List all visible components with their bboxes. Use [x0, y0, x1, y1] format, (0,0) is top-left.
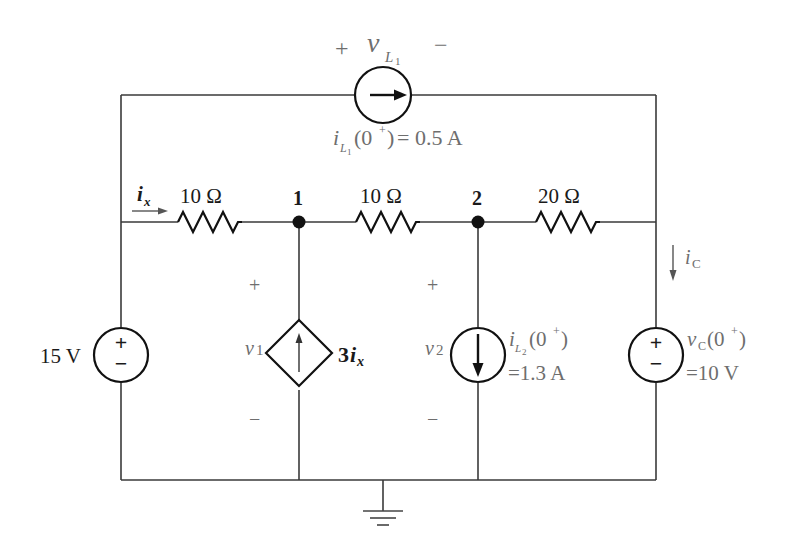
il2-close: )	[561, 327, 568, 351]
node-2-label: 2	[472, 187, 482, 209]
vc-var: v	[687, 327, 697, 351]
minus-sign: −	[115, 351, 128, 376]
v1-sub: 1	[256, 342, 264, 358]
ic-var: i	[685, 246, 691, 268]
node-1-label: 1	[293, 187, 303, 209]
gain-label: 3	[338, 342, 349, 367]
arrow-up-head	[296, 333, 303, 343]
resistor-r1	[178, 212, 242, 232]
r1-label: 10 Ω	[180, 184, 222, 208]
il1-value: = 0.5 A	[397, 125, 463, 150]
vc-initial-label: v C (0 + ) =10 V	[686, 324, 746, 385]
vc-sub: C	[698, 339, 706, 353]
vc-close: )	[739, 327, 746, 351]
arrow-down-head	[473, 363, 484, 377]
vc-arg: (0	[707, 327, 725, 351]
ix-var: i	[137, 182, 143, 206]
resistor-zigzag	[178, 212, 242, 232]
node-2-dot	[472, 216, 485, 229]
vc-value: =10 V	[686, 361, 739, 385]
v1-plus-sign: +	[249, 274, 260, 296]
resistor-zigzag	[536, 212, 600, 232]
source-15v-label: 15 V	[40, 344, 81, 368]
resistor-r3	[536, 212, 600, 232]
node-1-dot	[293, 216, 306, 229]
r2-label: 10 Ω	[360, 184, 402, 208]
vl1-subsub: 1	[395, 55, 401, 67]
v2-sub: 2	[436, 342, 444, 358]
ic-arrow-head	[670, 270, 677, 281]
il2-sup: +	[553, 324, 560, 338]
il1-close: )	[387, 125, 394, 150]
il1-arg: (0	[354, 125, 372, 150]
il2-value: =1.3 A	[508, 361, 566, 385]
inductor-l1-current-source	[355, 67, 411, 123]
ix-current-label: i x	[132, 182, 168, 215]
circuit-diagram: + v L 1 − i L 1 (0 + ) = 0.5 A 10 Ω 10 Ω…	[0, 0, 791, 555]
arrow-right-head	[394, 90, 407, 101]
ic-current-label: i C	[670, 245, 701, 281]
v1-minus-sign: −	[249, 408, 260, 430]
v2-minus-sign: −	[427, 408, 438, 430]
il2-arg: (0	[529, 327, 547, 351]
il1-subsub: 1	[347, 147, 352, 157]
v2-plus-sign: +	[427, 274, 438, 296]
inductor-l2-current-source	[451, 328, 505, 382]
vl1-plus-sign: +	[335, 35, 349, 61]
voltage-source-15v: + −	[94, 328, 148, 382]
il1-initial-label: i L 1 (0 + ) = 0.5 A	[333, 123, 463, 157]
resistor-r2	[356, 212, 420, 232]
il1-var: i	[333, 125, 339, 150]
vl1-sub: L	[384, 49, 393, 65]
vl1-minus-sign: −	[434, 32, 448, 58]
il2-sub: L	[514, 342, 521, 354]
wires	[121, 95, 656, 480]
r3-label: 20 Ω	[538, 184, 580, 208]
resistor-zigzag	[356, 212, 420, 232]
il1-sup: +	[379, 123, 386, 137]
il2-subsub: 2	[522, 347, 527, 357]
v1-var: v	[245, 337, 254, 359]
il2-initial-label: i L 2 (0 + ) =1.3 A	[508, 324, 568, 385]
vc-sup: +	[731, 324, 738, 338]
gain-control-var: i	[350, 342, 357, 367]
ic-sub: C	[692, 256, 701, 271]
ix-arrow-head	[158, 208, 168, 215]
il1-sub: L	[339, 141, 347, 155]
vl1-var: v	[367, 27, 380, 58]
ix-sub: x	[143, 194, 151, 209]
v2-var: v	[425, 337, 434, 359]
minus-sign: −	[650, 351, 663, 376]
capacitor-voltage-source: + −	[629, 328, 683, 382]
gain-control-sub: x	[356, 354, 364, 369]
ground-icon	[363, 480, 403, 525]
dependent-current-source	[266, 320, 332, 386]
